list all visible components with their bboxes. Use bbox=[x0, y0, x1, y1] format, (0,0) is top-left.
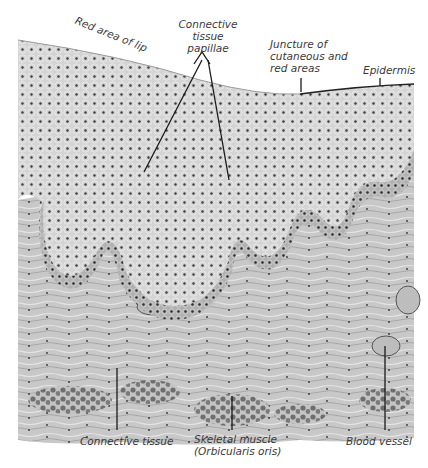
label-blood-vessel: Blood vessel bbox=[346, 435, 412, 447]
muscle-bundle bbox=[120, 380, 180, 404]
label-line: cutaneous and bbox=[270, 50, 348, 62]
label-epidermis: Epidermis bbox=[363, 64, 415, 76]
label-line: papillae bbox=[176, 42, 240, 54]
blood-vessel-shape bbox=[396, 286, 420, 314]
label-connective-tissue-papillae: Connective tissue papillae bbox=[176, 18, 240, 54]
muscle-bundle bbox=[274, 404, 326, 424]
label-juncture: Juncture of cutaneous and red areas bbox=[270, 38, 348, 74]
label-line: Juncture of bbox=[270, 38, 348, 50]
label-line: red areas bbox=[270, 62, 348, 74]
muscle-bundle bbox=[28, 386, 112, 414]
label-line: tissue bbox=[176, 30, 240, 42]
blood-vessel-shape bbox=[372, 336, 400, 356]
label-line: (Orbicularis oris) bbox=[194, 445, 281, 457]
label-skeletal-muscle: Skeletal muscle (Orbicularis oris) bbox=[194, 433, 281, 457]
label-line: Connective bbox=[176, 18, 240, 30]
label-connective-tissue: Connective tissue bbox=[80, 435, 173, 447]
label-line: Skeletal muscle bbox=[194, 433, 281, 445]
